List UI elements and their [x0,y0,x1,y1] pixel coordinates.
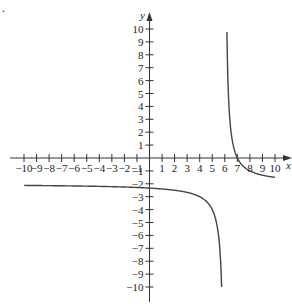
y-tick-label: 4 [138,100,144,112]
y-tick-label: 8 [138,49,144,61]
x-tick-label: −3 [106,162,118,174]
x-tick-label: −5 [81,162,93,174]
y-tick-label: 7 [138,62,144,74]
x-tick-label: 6 [222,162,228,174]
x-tick-label: 7 [235,162,241,174]
x-tick-label: 4 [197,162,203,174]
y-axis-label: y [139,9,145,21]
x-tick-label: −2 [119,162,131,174]
y-tick-label: 1 [138,139,144,151]
x-tick-label: 10 [270,162,282,174]
y-tick-label: 9 [138,36,144,48]
x-tick-label: 9 [260,162,266,174]
y-tick-label: −10 [126,281,144,293]
y-tick-label: 5 [138,88,144,100]
left-branch-curve [24,185,222,287]
function-graph: −10−9−8−7−6−5−4−3−2−112345678910−10−9−8−… [0,0,292,304]
x-tick-label: 5 [210,162,216,174]
x-tick-label: −8 [43,162,55,174]
y-tick-label: 2 [138,126,144,138]
y-tick-label: −6 [132,229,144,241]
right-branch-curve [227,32,275,177]
y-tick-label: −1 [132,165,144,177]
x-tick-label: −4 [93,162,105,174]
x-tick-label: 3 [184,162,190,174]
x-tick-label: 2 [172,162,178,174]
y-axis-arrow-icon [147,12,153,21]
x-tick-label: 1 [159,162,165,174]
y-tick-label: 10 [133,23,145,35]
x-tick-label: −6 [68,162,80,174]
y-tick-label: −9 [132,268,144,280]
y-tick-label: 3 [138,113,144,125]
stray-mark: . [2,1,5,15]
x-axis-label: x [285,159,291,171]
y-tick-label: −8 [132,255,144,267]
y-tick-label: −4 [132,204,144,216]
y-tick-label: −5 [132,217,144,229]
x-tick-label: −7 [56,162,68,174]
y-tick-label: −7 [132,242,144,254]
y-tick-label: 6 [138,75,144,87]
y-tick-label: −3 [132,191,144,203]
x-tick-label: −9 [31,162,43,174]
